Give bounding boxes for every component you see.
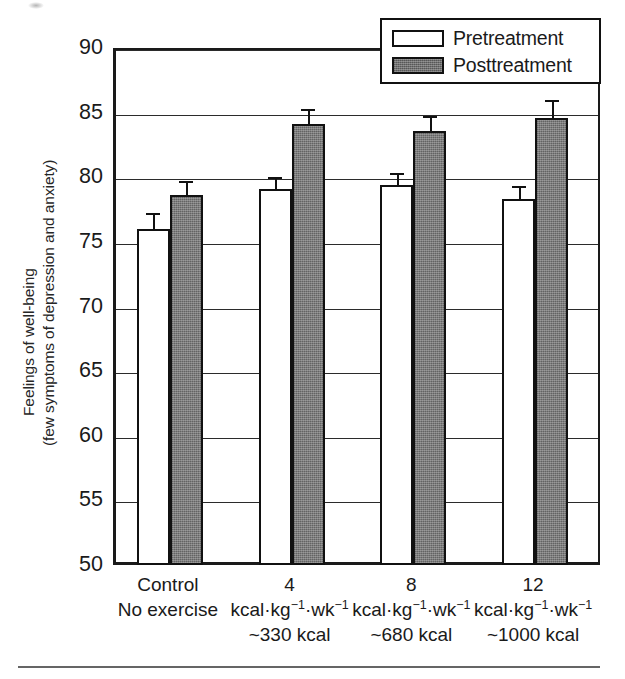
- legend-label-posttreatment: Posttreatment: [453, 56, 572, 76]
- error-bar-cap: [146, 213, 160, 215]
- legend-entry-pretreatment: Pretreatment: [392, 25, 599, 52]
- x-axis-group-label: 4kcal·kg−1·wk−1~330 kcal: [229, 572, 351, 647]
- error-bar-cap: [512, 186, 526, 188]
- legend-swatch-posttreatment: [392, 57, 444, 74]
- error-bar-cap: [301, 109, 315, 111]
- y-axis-title-line2: (few symptoms of depression and anxiety): [40, 160, 58, 446]
- x-axis-label-line: kcal·kg−1·wk−1: [351, 597, 473, 622]
- x-axis-label-line: 8: [351, 572, 473, 597]
- y-axis-tick-label: 70: [57, 296, 103, 318]
- x-axis-group-label: ControlNo exercise: [107, 572, 229, 622]
- error-bar-cap: [545, 100, 559, 102]
- x-axis-label-line: kcal·kg−1·wk−1: [229, 597, 351, 622]
- x-axis-label-line: Control: [107, 572, 229, 597]
- y-axis-tick-label: 65: [57, 360, 103, 382]
- bar-posttreatment: [413, 131, 446, 565]
- figure-bottom-rule: [18, 666, 600, 668]
- page-smudge-artifact: [28, 2, 44, 9]
- y-axis-tick-label: 50: [57, 554, 103, 576]
- bar-group: [357, 48, 479, 565]
- y-axis-tick-label: 75: [57, 231, 103, 253]
- x-axis-group-label: 8kcal·kg−1·wk−1~680 kcal: [351, 572, 473, 647]
- bar-pretreatment: [502, 199, 535, 565]
- error-bar-cap: [268, 177, 282, 179]
- x-axis-label-line: kcal·kg−1·wk−1: [472, 597, 594, 622]
- y-axis-tick-label: 55: [57, 489, 103, 511]
- error-bar-cap: [390, 173, 404, 175]
- bar-posttreatment: [292, 124, 325, 565]
- error-bar: [430, 116, 432, 131]
- bar-pretreatment: [380, 185, 413, 565]
- bar-pretreatment: [259, 189, 292, 565]
- legend-entry-posttreatment: Posttreatment: [392, 52, 599, 79]
- bar-pretreatment: [137, 229, 170, 565]
- bar-posttreatment: [170, 195, 203, 565]
- y-axis-title-line1: Feelings of well-being: [20, 268, 38, 416]
- legend-swatch-pretreatment: [392, 30, 444, 47]
- y-axis-tick-label: 85: [57, 102, 103, 124]
- error-bar: [308, 109, 310, 124]
- x-axis-label-line: ~330 kcal: [229, 622, 351, 647]
- bar-posttreatment: [535, 118, 568, 565]
- figure-panel: Feelings of well-being (few symptoms of …: [0, 0, 625, 679]
- y-axis-tick-label: 60: [57, 425, 103, 447]
- error-bar: [153, 213, 155, 229]
- error-bar-cap: [179, 181, 193, 183]
- bar-group: [113, 48, 235, 565]
- y-axis-tick-label: 90: [57, 37, 103, 59]
- x-axis-labels: ControlNo exercise4kcal·kg−1·wk−1~330 kc…: [113, 572, 600, 656]
- x-axis-group-label: 12kcal·kg−1·wk−1~1000 kcal: [472, 572, 594, 647]
- error-bar-cap: [423, 116, 437, 118]
- chart-legend: Pretreatment Posttreatment: [380, 18, 601, 84]
- bar-group: [478, 48, 600, 565]
- bar-group: [235, 48, 357, 565]
- error-bar: [186, 181, 188, 195]
- x-axis-label-line: ~1000 kcal: [472, 622, 594, 647]
- x-axis-label-line: 12: [472, 572, 594, 597]
- legend-label-pretreatment: Pretreatment: [453, 29, 563, 49]
- x-axis-label-line: 4: [229, 572, 351, 597]
- x-axis-label-line: No exercise: [107, 597, 229, 622]
- x-axis-label-line: ~680 kcal: [351, 622, 473, 647]
- bar-groups: [113, 48, 600, 565]
- error-bar: [552, 100, 554, 118]
- y-axis-tick-label: 80: [57, 166, 103, 188]
